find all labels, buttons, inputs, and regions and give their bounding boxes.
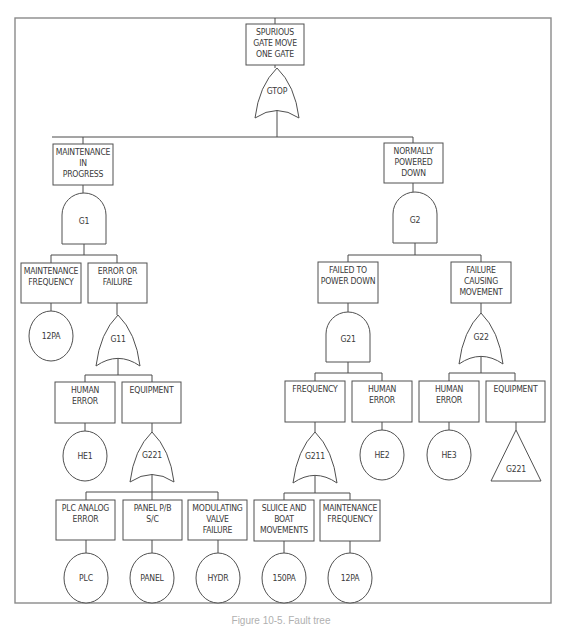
event-frequency: FREQUENCY (285, 381, 345, 422)
basic-event-HE3-circle-icon: HE3 (427, 430, 471, 480)
basic-event-PLC-circle-icon: PLC (64, 553, 108, 603)
event-human-error-1: HUMANERROR (55, 382, 115, 423)
event-label: SPURIOUS (256, 27, 294, 37)
event-failure-causing-movement: FAILURECAUSINGMOVEMENT (451, 262, 511, 303)
event-label: HUMAN (71, 385, 100, 395)
gate-G1-and-gate-icon: G1 (62, 193, 106, 244)
event-label: FREQUENCY (28, 277, 74, 287)
basic-event-HE1-circle-icon: HE1 (63, 431, 107, 481)
event-maint-frequency-2: MAINTENANCEFREQUENCY (320, 500, 380, 541)
basic-event-label: PLC (79, 573, 93, 583)
event-label: ERROR (369, 395, 396, 405)
gate-G2-and-gate-icon: G2 (393, 192, 437, 243)
event-failed-to-power-down: FAILED TOPOWER DOWN (318, 262, 378, 303)
event-label: ERROR OR (98, 266, 138, 276)
event-equipment-2: EQUIPMENT (486, 381, 545, 422)
event-label: EQUIPMENT (130, 385, 174, 395)
event-maint-frequency-1: MAINTENANCEFREQUENCY (21, 263, 81, 303)
event-label: ERROR (72, 514, 99, 524)
event-label: FAILURE (103, 277, 133, 287)
fault-tree-diagram: SPURIOUSGATE MOVEONE GATEMAINTENANCEINPR… (0, 0, 563, 628)
basic-event-label: 12PA (341, 573, 360, 583)
event-label: HUMAN (368, 384, 397, 394)
gate-label: G2 (410, 215, 421, 225)
event-human-error-3: HUMANERROR (419, 381, 479, 422)
gate-G22-or-gate-icon: G22 (459, 313, 503, 364)
event-label: PLC ANALOG (62, 503, 109, 513)
event-maint-in-progress: MAINTENANCEINPROGRESS (53, 144, 113, 185)
event-human-error-2: HUMANERROR (352, 381, 412, 422)
event-top: SPURIOUSGATE MOVEONE GATE (246, 24, 304, 65)
event-label: BOAT (274, 514, 294, 524)
event-label: IN (79, 158, 87, 168)
event-label: ERROR (72, 396, 99, 406)
event-label: MAINTENANCE (323, 503, 378, 513)
event-label: SLUICE AND (262, 503, 307, 513)
event-label: S/C (146, 514, 158, 524)
event-label: PANEL P/B (134, 503, 172, 513)
basic-event-HYDR-circle-icon: HYDR (196, 553, 240, 603)
event-label: FAILED TO (329, 265, 367, 275)
basic-event-label: HE2 (374, 450, 389, 460)
basic-event-label: HE1 (77, 451, 92, 461)
event-equipment-1: EQUIPMENT (122, 382, 181, 423)
event-label: DOWN (401, 168, 426, 178)
event-label: CAUSING (464, 276, 498, 286)
event-label: VALVE (206, 514, 229, 524)
gate-label: G211 (305, 451, 325, 461)
figure-caption: Figure 10-5. Fault tree (232, 615, 331, 626)
event-label: FREQUENCY (292, 384, 338, 394)
event-label: GATE MOVE (253, 38, 297, 48)
basic-event-label: PANEL (140, 573, 164, 583)
event-label: MAINTENANCE (24, 266, 79, 276)
basic-event-12PA-a-circle-icon: 12PA (29, 311, 73, 361)
basic-events: 12PAHE1HE2HE3PLCPANELHYDR150PA12PA (29, 311, 471, 603)
event-label: MOVEMENT (459, 287, 503, 297)
event-normally-powered-down: NORMALLYPOWEREDDOWN (384, 143, 443, 183)
transfer-gates: G221 (491, 430, 541, 481)
gate-G211-or-gate-icon: G211 (293, 432, 337, 483)
gate-G11-or-gate-icon: G11 (96, 315, 140, 366)
event-label: POWERED (394, 157, 432, 167)
event-error-or-failure: ERROR ORFAILURE (88, 263, 147, 303)
basic-event-label: 12PA (42, 331, 61, 341)
event-label: MAINTENANCE (56, 147, 111, 157)
event-label: FAILURE (203, 525, 233, 535)
transfer-G221-transfer-triangle-icon: G221 (491, 430, 541, 481)
basic-event-150PA-circle-icon: 150PA (262, 553, 306, 603)
gate-label: G221 (142, 450, 162, 460)
basic-event-label: HYDR (207, 573, 229, 583)
event-label: MODULATING (192, 503, 242, 513)
basic-event-PANEL-circle-icon: PANEL (130, 553, 174, 603)
event-sluice-boat-movements: SLUICE ANDBOATMOVEMENTS (254, 500, 314, 541)
event-label: ERROR (436, 395, 463, 405)
event-label: FAILURE (466, 265, 496, 275)
event-label: FREQUENCY (327, 514, 373, 524)
event-label: EQUIPMENT (494, 384, 538, 394)
basic-event-label: 150PA (272, 573, 296, 583)
event-label: NORMALLY (394, 146, 434, 156)
transfer-label: G221 (506, 464, 526, 474)
event-label: HUMAN (435, 384, 464, 394)
event-plc-analog-error: PLC ANALOGERROR (56, 500, 115, 540)
event-label: ONE GATE (256, 49, 294, 59)
gate-label: G22 (473, 332, 489, 342)
event-label: POWER DOWN (321, 276, 376, 286)
gate-label: GTOP (267, 86, 288, 96)
event-panel-pb-sc: PANEL P/BS/C (123, 500, 182, 540)
gate-label: G21 (340, 334, 356, 344)
event-modulating-valve-failure: MODULATINGVALVEFAILURE (188, 500, 247, 540)
basic-event-12PA-b-circle-icon: 12PA (328, 553, 372, 603)
basic-event-HE2-circle-icon: HE2 (360, 430, 404, 480)
gate-G221-or-gate-icon: G221 (130, 432, 174, 482)
gate-label: G11 (110, 334, 126, 344)
gate-label: G1 (79, 216, 90, 226)
gate-GTOP-or-gate-icon: GTOP (255, 68, 299, 118)
gate-G21-and-gate-icon: G21 (326, 312, 370, 362)
basic-event-label: HE3 (441, 450, 456, 460)
event-label: PROGRESS (63, 169, 104, 179)
event-label: MOVEMENTS (260, 525, 308, 535)
